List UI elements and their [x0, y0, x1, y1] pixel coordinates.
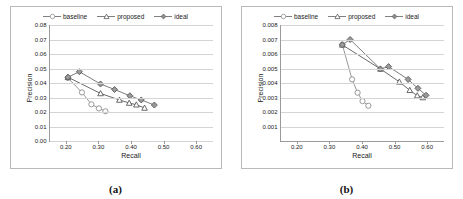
y-axis-title-a: Precision — [25, 73, 32, 102]
legend-item-ideal-b: ideal — [385, 13, 419, 20]
y-tick-label: 0.003 — [262, 95, 277, 101]
gridline — [50, 127, 213, 128]
legend-item-proposed-a: proposed — [97, 13, 144, 20]
data-point-baseline — [79, 90, 84, 95]
gridline — [50, 98, 213, 99]
x-tick-mark — [362, 141, 363, 144]
x-tick-label: 0.60 — [421, 144, 433, 150]
y-tick-label: 0.02 — [35, 109, 47, 115]
legend-label-proposed-b: proposed — [348, 13, 375, 20]
y-tick-label: 0.06 — [35, 51, 47, 57]
data-point-baseline — [88, 102, 93, 107]
gridline — [281, 98, 444, 99]
legend-swatch-triangle-icon — [328, 13, 346, 20]
gridline — [281, 112, 444, 113]
gridline — [281, 69, 444, 70]
x-tick-label: 0.50 — [158, 144, 170, 150]
legend-swatch-circle-icon — [43, 13, 61, 20]
data-point-baseline — [355, 90, 360, 95]
legend-item-ideal-a: ideal — [154, 13, 188, 20]
y-tick-label: 0.08 — [35, 22, 47, 28]
gridline — [50, 83, 213, 84]
data-point-ideal — [151, 102, 157, 108]
figure-container: baseline proposed ideal Precision — [0, 0, 463, 199]
x-tick-label: 0.30 — [93, 144, 105, 150]
legend-item-baseline-a: baseline — [43, 13, 87, 20]
panel-a: baseline proposed ideal Precision — [0, 0, 231, 199]
gridline — [281, 40, 444, 41]
legend-label-baseline-a: baseline — [63, 13, 87, 20]
x-tick-mark — [329, 141, 330, 144]
y-tick-label: 0.00 — [35, 138, 47, 144]
data-point-baseline — [359, 99, 364, 104]
gridline — [50, 112, 213, 113]
x-tick-mark — [131, 141, 132, 144]
gridline — [281, 83, 444, 84]
y-tick-label: 0.07 — [35, 37, 47, 43]
data-point-ideal — [97, 81, 103, 87]
y-tick-label: 0.05 — [35, 66, 47, 72]
y-tick-label: 0.04 — [35, 80, 47, 86]
y-tick-label: 0.01 — [35, 124, 47, 130]
plot-area-a: Recall 0.000.010.020.030.040.050.060.070… — [49, 25, 213, 142]
legend-label-proposed-a: proposed — [117, 13, 144, 20]
legend-swatch-diamond-icon — [385, 13, 403, 20]
x-tick-mark — [427, 141, 428, 144]
legend-b: baseline proposed ideal — [242, 13, 452, 20]
x-tick-label: 0.40 — [356, 144, 368, 150]
legend-label-ideal-b: ideal — [405, 13, 419, 20]
legend-item-baseline-b: baseline — [274, 13, 318, 20]
data-point-baseline — [365, 103, 370, 108]
data-point-baseline — [96, 106, 101, 111]
y-tick-label: 0.005 — [262, 66, 277, 72]
gridline — [50, 25, 213, 26]
legend-label-ideal-a: ideal — [174, 13, 188, 20]
gridline — [50, 40, 213, 41]
data-point-baseline — [349, 77, 354, 82]
data-point-ideal — [111, 87, 117, 93]
chart-frame-a: baseline proposed ideal Precision — [10, 6, 222, 169]
y-tick-label: 0.001 — [262, 124, 277, 130]
legend-swatch-diamond-icon — [154, 13, 172, 20]
legend-label-baseline-b: baseline — [294, 13, 318, 20]
data-point-proposed — [97, 91, 103, 96]
legend-swatch-triangle-icon — [97, 13, 115, 20]
gridline — [281, 25, 444, 26]
x-tick-mark — [297, 141, 298, 144]
caption-a: (a) — [0, 183, 231, 195]
y-tick-label: 0.006 — [262, 51, 277, 57]
x-tick-mark — [66, 141, 67, 144]
data-point-ideal — [76, 69, 82, 75]
gridline — [281, 127, 444, 128]
x-tick-label: 0.20 — [60, 144, 72, 150]
legend-swatch-circle-icon — [274, 13, 292, 20]
x-tick-label: 0.60 — [190, 144, 202, 150]
gridline — [50, 69, 213, 70]
caption-b: (b) — [231, 183, 462, 195]
y-tick-label: 0.03 — [35, 95, 47, 101]
gridline — [50, 54, 213, 55]
gridline — [281, 54, 444, 55]
legend-a: baseline proposed ideal — [11, 13, 221, 20]
y-tick-label: 0.008 — [262, 22, 277, 28]
plot-area-b: Recall 0.0010.0020.0030.0040.0050.0060.0… — [280, 25, 444, 142]
x-axis-title-b: Recall — [281, 152, 444, 159]
x-tick-label: 0.50 — [389, 144, 401, 150]
x-axis-title-a: Recall — [50, 152, 213, 159]
chart-frame-b: baseline proposed ideal Precision — [241, 6, 453, 169]
panel-b: baseline proposed ideal Precision — [231, 0, 462, 199]
y-tick-label: 0.004 — [262, 80, 277, 86]
x-tick-label: 0.40 — [125, 144, 137, 150]
x-tick-mark — [395, 141, 396, 144]
y-tick-label: 0.007 — [262, 37, 277, 43]
x-tick-label: 0.30 — [324, 144, 336, 150]
x-tick-label: 0.20 — [291, 144, 303, 150]
x-tick-mark — [98, 141, 99, 144]
x-tick-mark — [164, 141, 165, 144]
y-tick-label: 0.002 — [262, 109, 277, 115]
legend-item-proposed-b: proposed — [328, 13, 375, 20]
x-tick-mark — [196, 141, 197, 144]
